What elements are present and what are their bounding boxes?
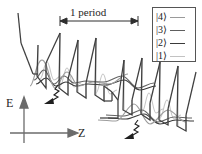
legend-item-state-3: |3⟩ bbox=[156, 24, 185, 36]
period-label: 1 period bbox=[70, 6, 106, 18]
legend-item-state-1: |1⟩ bbox=[156, 50, 185, 62]
legend-label-state-1: |1⟩ bbox=[156, 51, 167, 61]
legend-swatch-state-1 bbox=[170, 56, 185, 57]
legend-label-state-2: |2⟩ bbox=[156, 38, 167, 48]
energy-axis bbox=[20, 97, 28, 143]
position-axis bbox=[10, 129, 78, 137]
legend-item-state-4: |4⟩ bbox=[156, 11, 185, 23]
legend-label-state-4: |4⟩ bbox=[156, 12, 167, 22]
legend-swatch-state-2 bbox=[170, 43, 185, 44]
legend-swatch-state-4 bbox=[170, 17, 185, 18]
position-axis-label: Z bbox=[78, 126, 85, 141]
band-diagram-figure: 1 period E Z |4⟩ |3⟩ |2⟩ |1⟩ bbox=[0, 0, 202, 154]
legend: |4⟩ |3⟩ |2⟩ |1⟩ bbox=[152, 7, 196, 62]
legend-swatch-state-3 bbox=[170, 30, 185, 31]
energy-axis-label: E bbox=[6, 96, 13, 111]
photon-emission-arrow-2 bbox=[124, 120, 139, 139]
legend-label-state-3: |3⟩ bbox=[156, 25, 167, 35]
legend-item-state-2: |2⟩ bbox=[156, 37, 185, 49]
